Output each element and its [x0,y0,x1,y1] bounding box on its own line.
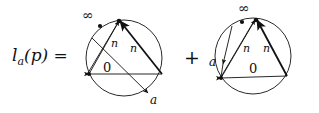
edge-right-thick [257,20,287,76]
arc-dot [98,24,102,28]
label-zero: 0 [249,61,257,76]
label-n-left: n [243,42,250,55]
label-infinity: ∞ [238,0,250,16]
label-a: a [209,55,216,69]
top-vertex-dot [254,18,259,23]
label-infinity: ∞ [82,7,94,23]
equation-argument: (p) = [24,45,68,65]
figure-container: la(p) = [0,0,319,113]
label-a: a [150,93,157,107]
left-vertex-dot [87,72,91,76]
circle-outline [215,18,291,94]
label-n-right: n [263,42,270,55]
left-vertex-dot [219,76,223,80]
arc-dot [240,20,244,24]
label-n-left: n [111,37,118,50]
diagram-left: ∞ n n 0 a [72,0,192,113]
top-vertex-dot [117,19,122,24]
label-n-right: n [130,42,137,55]
label-zero: 0 [103,60,111,75]
chord-base [221,76,287,78]
edge-right-thick [120,21,162,74]
diagram-right: ∞ n n 0 a [198,0,318,113]
